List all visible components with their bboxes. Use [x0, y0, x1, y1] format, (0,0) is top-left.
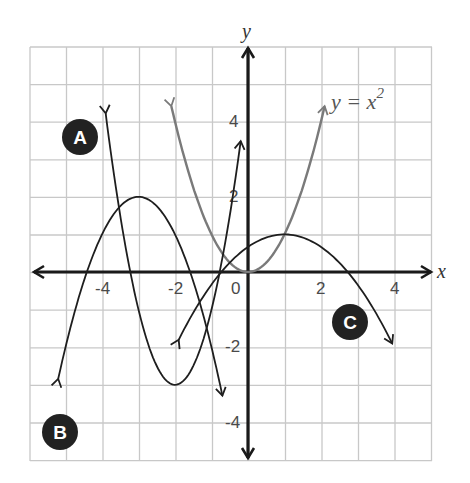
badge-c: C	[332, 304, 368, 340]
svg-text:B: B	[53, 422, 67, 443]
equation-label: y = x2	[329, 85, 384, 114]
tick-x-minus-4: -4	[95, 279, 110, 298]
tick-y-minus-2: -2	[225, 337, 240, 356]
tick-y-4: 4	[229, 112, 238, 131]
graph: x y -4 -2 0 2 4 4 2 -2 -4 y = x2 A B C	[0, 0, 470, 483]
x-axis-label: x	[436, 260, 446, 282]
y-axis-label: y	[240, 20, 251, 43]
tick-x-minus-2: -2	[168, 279, 183, 298]
curve-b	[58, 197, 222, 396]
equation-exponent: 2	[376, 85, 384, 101]
svg-text:C: C	[343, 312, 357, 333]
tick-x-2: 2	[316, 279, 325, 298]
tick-x-4: 4	[390, 279, 399, 298]
badge-b: B	[42, 414, 78, 450]
tick-y-minus-4: -4	[225, 413, 240, 432]
tick-origin: 0	[231, 279, 240, 298]
badge-a: A	[62, 119, 98, 155]
svg-text:A: A	[73, 127, 87, 148]
